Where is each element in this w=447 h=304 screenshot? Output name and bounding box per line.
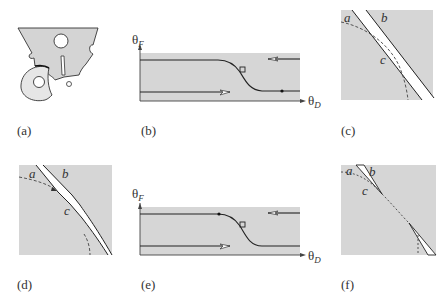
panel-a: (a) [0, 0, 130, 150]
x-axis-label: θD [308, 93, 321, 110]
y-axis-label: θF [132, 186, 144, 203]
dot-marker [280, 89, 283, 92]
dot-marker [217, 212, 220, 215]
curve-label-c: c [362, 183, 368, 198]
curve-label-b: b [381, 10, 388, 25]
panel-label-c: (c) [341, 123, 355, 139]
y-axis-label: θF [132, 32, 144, 49]
panel-label-a: (a) [17, 123, 31, 139]
curve-label-c: c [64, 203, 70, 218]
panel-label-d: (d) [17, 277, 32, 293]
curve-label-a: a [344, 10, 351, 25]
phase-plot-e: θF θD [130, 150, 330, 304]
curve-label-b: b [369, 164, 376, 179]
x-axis-label: θD [308, 248, 321, 265]
curve-label-b: b [62, 166, 69, 181]
panel-c: a b c (c) [330, 0, 447, 150]
panel-f: a b c (f) [330, 150, 447, 304]
panel-d: a b c (d) [0, 150, 130, 304]
panel-e: θF θD (e) [130, 150, 330, 304]
panel-b: θF θD (b) [130, 0, 330, 150]
phase-plot-b: θF θD [130, 0, 330, 150]
curve-label-a: a [346, 163, 353, 178]
curve-label-a: a [29, 166, 36, 181]
panel-label-e: (e) [141, 277, 155, 293]
panel-label-b: (b) [141, 123, 156, 139]
curve-label-c: c [380, 52, 386, 67]
panel-label-f: (f) [341, 277, 354, 293]
